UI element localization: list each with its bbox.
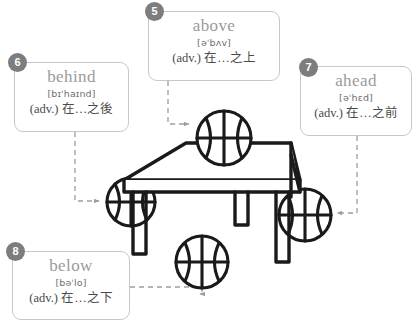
word-card-above[interactable]: above [əˈbʌv] (adv.) 在…之上 — [148, 11, 280, 81]
word-below: below — [13, 256, 129, 276]
badge-number-6: 6 — [8, 53, 27, 72]
ball-below-icon — [176, 236, 228, 288]
word-card-behind[interactable]: behind [bɪˈhaɪnd] (adv.) 在…之後 — [14, 62, 129, 132]
badge-number-5: 5 — [145, 2, 164, 21]
word-card-below[interactable]: below [bəˈlo] (adv.) 在…之下 — [12, 251, 130, 320]
badge-number-7: 7 — [299, 58, 318, 77]
worksheet-canvas: above [əˈbʌv] (adv.) 在…之上 5 behind [bɪˈh… — [0, 0, 415, 327]
ball-above-icon — [197, 111, 251, 165]
ball-ahead-icon — [279, 189, 331, 241]
gloss-below: (adv.) 在…之下 — [13, 290, 129, 307]
word-card-ahead[interactable]: ahead [əˈhɛd] (adv.) 在…之前 — [300, 66, 412, 136]
badge-number-8: 8 — [6, 242, 25, 261]
phonetic-behind: [bɪˈhaɪnd] — [15, 87, 128, 101]
phonetic-below: [bəˈlo] — [13, 276, 129, 290]
gloss-ahead: (adv.) 在…之前 — [301, 105, 411, 122]
phonetic-above: [əˈbʌv] — [149, 36, 279, 50]
word-above: above — [149, 16, 279, 36]
word-behind: behind — [15, 67, 128, 87]
word-ahead: ahead — [301, 71, 411, 91]
gloss-behind: (adv.) 在…之後 — [15, 101, 128, 118]
gloss-above: (adv.) 在…之上 — [149, 50, 279, 67]
phonetic-ahead: [əˈhɛd] — [301, 91, 411, 105]
